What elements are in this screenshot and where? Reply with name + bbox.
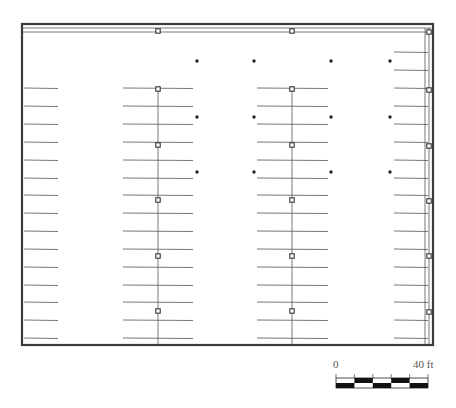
stall-line — [394, 178, 428, 179]
stall-line — [24, 178, 58, 179]
stall-line — [257, 267, 328, 268]
stall-line — [394, 160, 428, 161]
fixture-dot — [329, 115, 332, 118]
stall-line — [257, 249, 328, 250]
column-square — [427, 88, 431, 92]
fixture-dot — [195, 170, 198, 173]
column-square — [427, 30, 431, 34]
stall-line — [257, 178, 328, 179]
scale-bar-segment — [410, 383, 428, 388]
light-fixture-dots — [195, 59, 391, 173]
scale-start-label: 0 — [333, 358, 339, 370]
column-square — [427, 144, 431, 148]
column-grid-lines — [158, 86, 292, 345]
floor-plan — [0, 0, 456, 408]
column-square — [290, 143, 294, 147]
stall-line — [24, 249, 58, 250]
stall-line — [394, 231, 428, 232]
stall-line — [24, 195, 58, 196]
column-square — [427, 310, 431, 314]
fixture-dot — [252, 115, 255, 118]
fixture-dot — [329, 59, 332, 62]
stall-line — [24, 267, 58, 268]
column-square — [156, 29, 160, 33]
stall-line — [24, 160, 58, 161]
stall-line — [24, 142, 58, 143]
stall-line — [24, 285, 58, 286]
wall-bands — [22, 28, 431, 345]
column-square — [156, 254, 160, 258]
stall-line — [394, 338, 428, 339]
stall-line — [394, 106, 428, 107]
stall-line — [24, 88, 58, 89]
stall-line — [257, 320, 328, 321]
stall-line — [257, 285, 328, 286]
fixture-dot — [388, 115, 391, 118]
scale-end-label: 40 ft — [413, 358, 433, 370]
column-square — [156, 87, 160, 91]
fixture-dot — [388, 59, 391, 62]
fixture-dot — [252, 170, 255, 173]
stall-line — [24, 231, 58, 232]
stall-line — [257, 231, 328, 232]
column-square — [290, 29, 294, 33]
stall-line — [257, 195, 328, 196]
stall-line — [257, 124, 328, 125]
stall-line — [257, 106, 328, 107]
stall-line — [24, 320, 58, 321]
scale-bar-segment — [336, 383, 354, 388]
stall-line — [394, 52, 428, 53]
scale-bar-segment — [373, 383, 391, 388]
column-square — [156, 309, 160, 313]
column-square — [290, 254, 294, 258]
column-square — [156, 143, 160, 147]
scale-bar-segment — [354, 378, 372, 383]
stall-line — [394, 195, 428, 196]
stall-line — [394, 124, 428, 125]
column-square — [427, 199, 431, 203]
scale-bar-segment — [391, 378, 409, 383]
stall-line — [394, 267, 428, 268]
fixture-dot — [329, 170, 332, 173]
column-square — [427, 254, 431, 258]
outer-wall-rect — [22, 24, 433, 345]
column-square — [290, 309, 294, 313]
stall-line — [257, 338, 328, 339]
stall-line — [24, 106, 58, 107]
fixture-dot — [388, 170, 391, 173]
fixture-dot — [252, 59, 255, 62]
stall-line — [257, 302, 328, 303]
parking-stall-lines — [24, 52, 428, 339]
fixture-dot — [195, 115, 198, 118]
stall-line — [24, 302, 58, 303]
stall-line — [394, 142, 428, 143]
stall-line — [24, 338, 58, 339]
stall-line — [394, 70, 428, 71]
column-square — [156, 198, 160, 202]
outer-wall — [22, 24, 433, 345]
column-square — [290, 198, 294, 202]
stall-line — [24, 213, 58, 214]
stall-line — [257, 160, 328, 161]
stall-line — [394, 249, 428, 250]
fixture-dot — [195, 59, 198, 62]
scale-bar — [336, 374, 428, 388]
stall-line — [394, 302, 428, 303]
column-square — [290, 87, 294, 91]
stall-line — [394, 88, 428, 89]
stall-line — [394, 213, 428, 214]
stall-line — [394, 285, 428, 286]
stall-line — [24, 124, 58, 125]
stall-line — [394, 320, 428, 321]
stall-line — [257, 213, 328, 214]
